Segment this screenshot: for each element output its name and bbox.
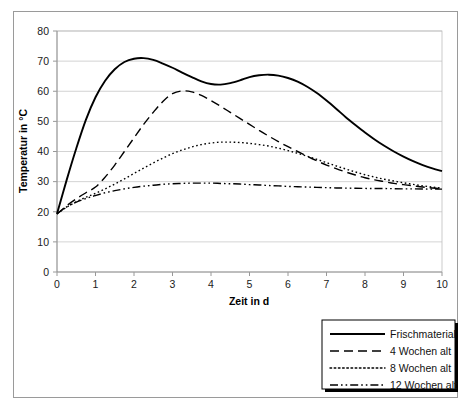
y-tick-label-40: 40 [37, 145, 49, 157]
y-tick-label-50: 50 [37, 115, 49, 127]
legend-label-3: 12 Wochen alt [390, 379, 457, 391]
y-tick-label-70: 70 [37, 55, 49, 67]
x-axis-title: Zeit in d [229, 295, 269, 307]
temperature-line-chart: 01020304050607080 012345678910 Temperatu… [0, 0, 469, 411]
y-tick-label-20: 20 [37, 206, 49, 218]
y-tick-label-30: 30 [37, 175, 49, 187]
y-tick-label-60: 60 [37, 85, 49, 97]
legend: Frischmaterial4 Wochen alt8 Wochen alt12… [322, 320, 458, 392]
x-tick-label-2: 2 [131, 278, 137, 290]
x-tick-label-9: 9 [401, 278, 407, 290]
y-axis-title: Temperatur in °C [17, 109, 29, 193]
y-tick-label-10: 10 [37, 236, 49, 248]
x-tick-label-1: 1 [93, 278, 99, 290]
legend-label-1: 4 Wochen alt [390, 345, 451, 357]
legend-label-0: Frischmaterial [390, 328, 456, 340]
x-tick-label-6: 6 [285, 278, 291, 290]
y-tickmarks-group [53, 31, 57, 272]
x-tick-label-0: 0 [54, 278, 60, 290]
legend-label-2: 8 Wochen alt [390, 362, 451, 374]
x-tick-label-4: 4 [208, 278, 214, 290]
x-tick-label-5: 5 [247, 278, 253, 290]
y-tick-label-0: 0 [43, 266, 49, 278]
x-tick-label-3: 3 [170, 278, 176, 290]
x-tick-label-10: 10 [436, 278, 448, 290]
y-tick-label-80: 80 [37, 25, 49, 37]
x-tick-label-8: 8 [362, 278, 368, 290]
x-tick-labels-group: 012345678910 [54, 278, 448, 290]
figure-container: 01020304050607080 012345678910 Temperatu… [0, 0, 469, 411]
x-tickmarks-group [57, 272, 442, 276]
x-tick-label-7: 7 [324, 278, 330, 290]
y-tick-labels-group: 01020304050607080 [37, 25, 49, 278]
